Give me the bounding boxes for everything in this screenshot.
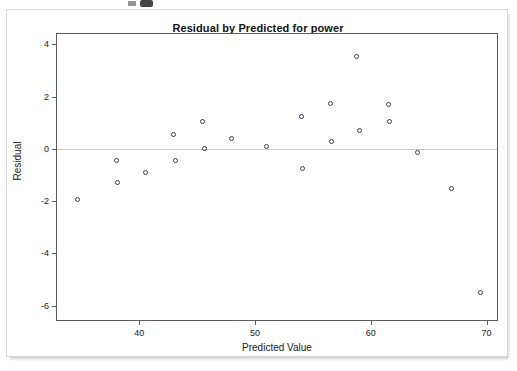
scatter-point <box>75 197 80 202</box>
y-tick-mark <box>52 306 57 307</box>
y-tick-label: -4 <box>41 248 49 258</box>
scatter-point <box>449 186 454 191</box>
x-tick-label: 70 <box>482 328 492 338</box>
scatter-point <box>229 136 234 141</box>
y-tick-label: 2 <box>44 92 49 102</box>
scatter-point <box>415 150 420 155</box>
scatter-point <box>202 146 207 151</box>
y-tick-label: -2 <box>41 196 49 206</box>
scatter-point <box>115 180 120 185</box>
scatter-point <box>329 139 334 144</box>
y-tick-label: -6 <box>41 301 49 311</box>
y-tick-mark <box>52 201 57 202</box>
x-tick-label: 60 <box>366 328 376 338</box>
scatter-point <box>143 170 148 175</box>
y-tick-label: 4 <box>44 39 49 49</box>
scatter-point <box>300 166 305 171</box>
chart-card: Residual by Predicted for power Residual… <box>6 9 508 357</box>
y-tick-mark <box>52 253 57 254</box>
scatter-point <box>328 101 333 106</box>
scatter-point <box>387 119 392 124</box>
scatter-point <box>354 54 359 59</box>
scatter-point <box>173 158 178 163</box>
y-tick-mark <box>52 97 57 98</box>
scatter-point <box>357 128 362 133</box>
scatter-point <box>171 132 176 137</box>
scatter-point <box>200 119 205 124</box>
scatter-point <box>386 102 391 107</box>
scatter-point <box>478 290 483 295</box>
card-drop-shadow-bottom <box>10 357 508 361</box>
y-axis-label: Residual <box>12 142 23 181</box>
scatter-point <box>299 114 304 119</box>
plot-area: 420-2-4-6 40506070 <box>56 33 498 321</box>
y-tick-mark <box>52 149 57 150</box>
x-tick-mark <box>255 320 256 325</box>
x-axis-label: Predicted Value <box>56 342 498 353</box>
clipped-text-artifact <box>140 0 153 7</box>
y-tick-label: 0 <box>44 144 49 154</box>
clipped-text-artifact-secondary <box>128 1 136 6</box>
x-tick-mark <box>139 320 140 325</box>
scatter-point <box>264 144 269 149</box>
x-tick-mark <box>487 320 488 325</box>
zero-reference-line <box>57 149 497 150</box>
x-tick-label: 40 <box>134 328 144 338</box>
scatter-point <box>114 158 119 163</box>
y-tick-mark <box>52 44 57 45</box>
x-tick-mark <box>371 320 372 325</box>
x-tick-label: 50 <box>250 328 260 338</box>
page-root: Residual by Predicted for power Residual… <box>0 0 517 371</box>
